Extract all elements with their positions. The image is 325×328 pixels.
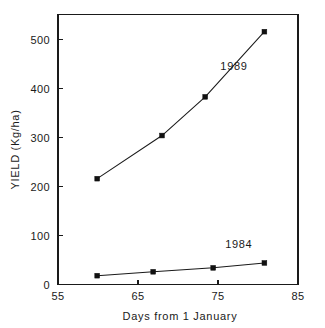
x-tick-label: 65 [131,290,144,302]
plot-frame [58,15,298,285]
y-tick-label: 500 [30,34,50,46]
data-point-marker [95,176,100,181]
x-tick-label: 85 [291,290,304,302]
y-tick-label: 200 [30,181,50,193]
series-annotation-1989: 1989 [220,60,247,72]
x-axis-title: Days from 1 January [123,310,238,322]
data-point-marker [203,94,208,99]
line-chart: 01002003004005005565758519891984Days fro… [0,0,325,328]
chart-figure: 01002003004005005565758519891984Days fro… [0,0,325,328]
data-point-marker [151,269,156,274]
x-tick-label: 55 [51,290,64,302]
x-tick-label: 75 [211,290,224,302]
data-point-marker [160,133,165,138]
y-axis-title: YIELD (Kg/ha) [9,109,21,189]
data-point-marker [211,265,216,270]
data-point-marker [262,29,267,34]
series-line-1984 [97,263,264,276]
y-tick-label: 100 [30,230,50,242]
y-tick-label: 400 [30,83,50,95]
series-annotation-1984: 1984 [225,238,252,250]
data-point-marker [95,273,100,278]
series-line-1989 [97,32,264,179]
data-point-marker [262,261,267,266]
y-tick-label: 300 [30,132,50,144]
y-tick-label: 0 [43,279,50,291]
